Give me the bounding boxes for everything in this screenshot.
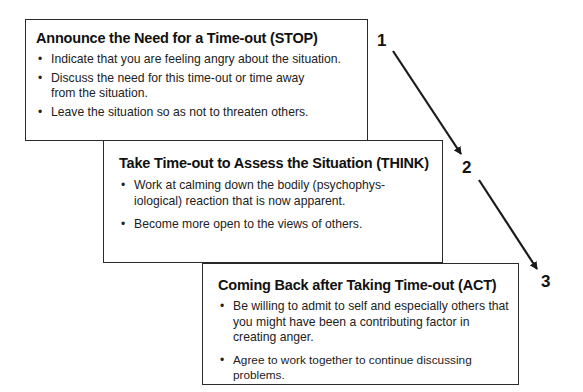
bullet-item: Become more open to the views of others.	[119, 217, 442, 233]
arrow-1-to-2	[393, 51, 461, 154]
bullet-item: Indicate that you are feeling angry abou…	[36, 52, 367, 68]
bullet-item: Discuss the need for this time-out or ti…	[36, 71, 367, 102]
step-1-bullets: Indicate that you are feeling angry abou…	[36, 52, 367, 120]
arrow-2-to-3	[479, 180, 537, 269]
step-2-box: Take Time-out to Assess the Situation (T…	[103, 140, 443, 263]
bullet-item: Be willing to admit to self and especial…	[218, 299, 518, 346]
bullet-item: Agree to work together to continue discu…	[218, 353, 518, 384]
bullet-item: Leave the situation so as not to threate…	[36, 105, 367, 121]
step-3-title: Coming Back after Taking Time-out (ACT)	[218, 277, 518, 293]
step-1-box: Announce the Need for a Time-out (STOP) …	[25, 19, 368, 141]
step-number-1: 1	[377, 31, 386, 51]
step-2-title: Take Time-out to Assess the Situation (T…	[119, 155, 442, 171]
step-number-3: 3	[541, 272, 550, 292]
step-number-2: 2	[462, 158, 471, 178]
bullet-item: Work at calming down the bodily (psychop…	[119, 178, 442, 209]
step-3-bullets: Be willing to admit to self and especial…	[218, 299, 518, 384]
step-3-box: Coming Back after Taking Time-out (ACT) …	[202, 263, 519, 385]
step-1-title: Announce the Need for a Time-out (STOP)	[36, 30, 367, 46]
step-2-bullets: Work at calming down the bodily (psychop…	[119, 178, 442, 233]
